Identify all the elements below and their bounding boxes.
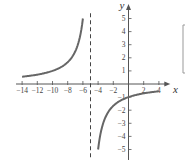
x-tick-label: −6 [79,86,87,95]
side-bracket [183,25,185,73]
y-tick-label: 5 [122,14,126,23]
x-tick-label: −4 [94,86,102,95]
y-tick-label: −4 [118,132,126,141]
y-tick-label: −2 [118,106,126,115]
chart: −14−12−10−8−6−4−224−5−4−3−2−112345xy [0,0,185,163]
y-tick-label: 2 [122,53,126,62]
x-tick-label: −2 [109,86,117,95]
x-tick-label: −12 [31,86,43,95]
y-tick-label: −5 [118,145,126,154]
y-tick-label: 1 [122,66,126,75]
x-tick-label: −14 [16,86,28,95]
curve-left-branch [22,19,83,77]
y-tick-label: 4 [122,27,126,36]
x-tick-label: −8 [64,86,72,95]
y-tick-label: 3 [122,40,126,49]
y-tick-label: −3 [118,119,126,128]
y-axis-arrow-icon [126,4,131,10]
x-axis-arrow-icon [164,82,170,87]
x-tick-label: −10 [47,86,59,95]
x-axis-label: x [172,83,178,95]
y-axis-label: y [119,0,125,11]
